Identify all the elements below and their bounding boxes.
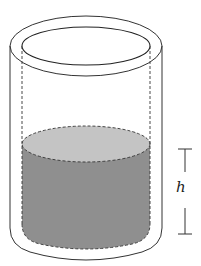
inner-rim (22, 27, 150, 65)
liquid (22, 126, 150, 249)
height-label: h (176, 180, 186, 195)
cylinder-cup-diagram (0, 0, 201, 266)
